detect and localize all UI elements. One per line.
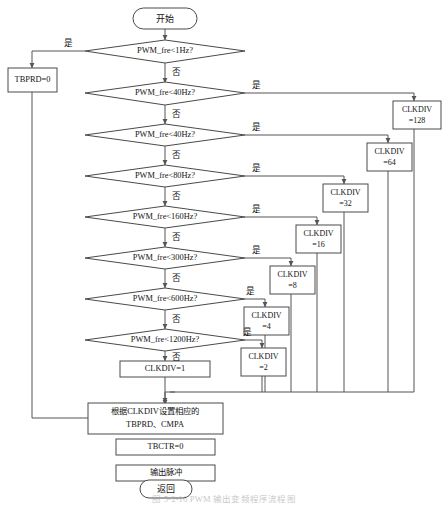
output-pulse-label: 输出脉冲 (150, 467, 182, 477)
clkdiv-32-line2: =32 (339, 199, 352, 208)
branch-yes-d2: 是 (252, 80, 261, 90)
branch-no-d1: 否 (172, 67, 181, 77)
branch-no-d3: 否 (172, 150, 181, 160)
decision-d8-label: PWM_fre<1200Hz? (131, 335, 200, 344)
setup-label-line1: 根据CLKDIV设置相应的 (111, 406, 199, 416)
clkdiv-16-line2: =16 (312, 240, 325, 249)
decision-d2-label: PWM_fre<40Hz? (135, 88, 195, 97)
branch-yes-d4: 是 (252, 163, 261, 173)
tbprd-zero-label: TBPRD=0 (15, 75, 51, 84)
decision-d7-label: PWM_fre<600Hz? (133, 294, 198, 303)
clkdiv-8-line2: =8 (288, 281, 297, 290)
clkdiv-128-line1: CLKDIV (402, 105, 432, 114)
clkdiv-4-line1: CLKDIV (251, 311, 281, 320)
branch-yes-d1: 是 (64, 38, 73, 48)
decision-d4-label: PWM_fre<80Hz? (135, 171, 195, 180)
branch-no-d4: 否 (172, 191, 181, 201)
branch-yes-d6: 是 (252, 245, 261, 255)
setup-label-line2: TBPRD、CMPA (126, 420, 184, 429)
clkdiv-128-line2: =128 (409, 116, 426, 125)
decision-d5-label: PWM_fre<160Hz? (133, 212, 198, 221)
decision-d3-label: PWM_fre<40Hz? (135, 130, 195, 139)
branch-yes-d5: 是 (252, 204, 261, 214)
start-label: 开始 (156, 13, 174, 24)
clkdiv-16-line1: CLKDIV (303, 229, 333, 238)
clkdiv-4-line2: =4 (262, 322, 271, 331)
branch-yes-d1 (32, 51, 85, 68)
flowchart-canvas: 开始 返回 PWM_fre<1Hz? PWM_fre<40Hz? PWM_fre… (0, 0, 448, 507)
figure-caption: 图 5-2-16 PWM 输出变频程序流程图 (0, 492, 448, 504)
clkdiv-64-line2: =64 (383, 158, 396, 167)
clkdiv-one-label: CLKDIV=1 (145, 364, 186, 373)
branch-no-d6: 否 (172, 273, 181, 283)
flowchart-figure: 开始 返回 PWM_fre<1Hz? PWM_fre<40Hz? PWM_fre… (0, 0, 448, 507)
branch-no-d5: 否 (172, 232, 181, 242)
branch-yes-d7: 是 (246, 286, 255, 296)
branch-no-d2: 否 (172, 109, 181, 119)
clkdiv-32-line1: CLKDIV (330, 188, 360, 197)
branch-yes-d8: 是 (243, 327, 252, 337)
branch-no-d8: 否 (172, 352, 181, 362)
decision-d1-label: PWM_fre<1Hz? (137, 46, 193, 55)
decision-d6-label: PWM_fre<300Hz? (133, 253, 198, 262)
clkdiv-64-line1: CLKDIV (374, 147, 404, 156)
branch-no-d7: 否 (172, 314, 181, 324)
tbctr-zero-label: TBCTR=0 (148, 442, 184, 451)
branch-yes-d3: 是 (252, 122, 261, 132)
clkdiv-8-line1: CLKDIV (277, 270, 307, 279)
clkdiv-2-line1: CLKDIV (248, 352, 278, 361)
clkdiv-2-line2: =2 (259, 363, 268, 372)
